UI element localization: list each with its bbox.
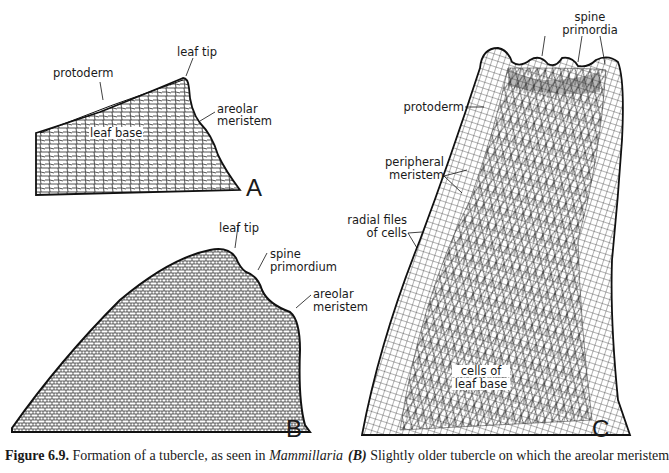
label-leaf-tip-b: leaf tip: [219, 222, 259, 234]
label-spine-primordia-c-line1: spine: [560, 11, 620, 23]
panel-b-drawing: [12, 226, 311, 432]
caption-panel-ref: (B): [348, 448, 367, 463]
label-peripheral-meristem-c-line1: peripheral: [370, 156, 444, 168]
caption-right-text: Slightly older tubercle on which the are…: [367, 448, 669, 463]
panel-letter-a: A: [246, 176, 262, 200]
label-radial-files-c-line1: radial files: [330, 214, 407, 226]
label-protoderm-a: protoderm: [53, 67, 113, 79]
label-areolar-meristem-b-line2: meristem: [313, 301, 368, 313]
label-protoderm-c: protoderm: [370, 101, 464, 113]
label-leaf-base-a: leaf base: [89, 127, 143, 139]
label-leaf-tip-a: leaf tip: [177, 46, 217, 58]
caption-left: Figure 6.9. Formation of a tubercle, as …: [5, 448, 343, 464]
label-cells-of-leaf-base-c-line1: cells of: [452, 365, 510, 377]
panel-letter-c: C: [592, 417, 609, 441]
panel-letter-b: B: [286, 417, 302, 441]
label-spine-primordium-b-line2: primordium: [270, 261, 337, 273]
label-peripheral-meristem-c-line2: meristem: [370, 169, 444, 181]
label-areolar-meristem-b-line1: areolar: [313, 288, 354, 300]
label-cells-of-leaf-base-c-line2: leaf base: [452, 378, 510, 390]
label-areolar-meristem-a-line2: meristem: [217, 115, 272, 127]
caption-right: (B) Slightly older tubercle on which the…: [348, 448, 669, 464]
label-spine-primordia-c-line2: primordia: [560, 24, 620, 36]
caption-figure-number: Figure 6.9.: [5, 448, 69, 463]
caption-genus: Mammillaria: [269, 448, 343, 463]
figure-illustration: leaf tip protoderm areolar meristem leaf…: [0, 0, 660, 440]
caption-left-text: Formation of a tubercle, as seen in: [69, 448, 269, 463]
label-radial-files-c-line2: of cells: [330, 227, 407, 239]
label-spine-primordium-b-line1: spine: [270, 248, 301, 260]
